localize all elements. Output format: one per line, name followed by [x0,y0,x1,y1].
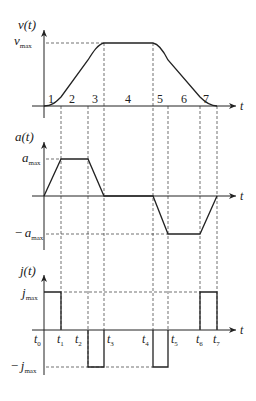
velocity-axis-label: v(t) [18,17,36,32]
velocity-plot: v(t) t vmax 1 2 3 4 5 6 7 [14,17,244,118]
time-label-t5: t5 [171,332,178,348]
amax-label: amax [22,150,41,167]
time-guide-lines [61,43,217,367]
jerk-plot: j(t) t jmax −jmax t0 t1 t2 t3 t4 t5 t6 t… [10,263,244,375]
segment-3: 3 [92,92,98,106]
segment-1: 1 [48,92,54,106]
segment-4: 4 [125,92,131,106]
time-label-t4: t4 [142,332,149,348]
time-label-t2: t2 [75,332,82,348]
time-label-t0: t0 [34,332,41,348]
jmax-label: jmax [20,285,38,302]
neg-amax-label: −amax [14,225,44,242]
vmax-label: vmax [14,33,32,50]
time-label-t6: t6 [196,332,203,348]
time-label-t7: t7 [213,332,220,348]
acceleration-axis-label: a(t) [15,129,34,144]
seven-segment-motion-profile-diagram: v(t) t vmax 1 2 3 4 5 6 7 a(t) t amax −a… [0,0,256,401]
time-label-t1: t1 [57,332,64,348]
segment-2: 2 [69,92,75,106]
segment-7: 7 [203,92,209,106]
segment-6: 6 [181,92,187,106]
acceleration-plot: a(t) t amax −amax [14,129,244,250]
jerk-t-label: t [240,323,244,337]
segment-numbers: 1 2 3 4 5 6 7 [48,92,209,106]
acceleration-t-label: t [240,189,244,203]
segment-5: 5 [157,92,163,106]
time-labels: t0 t1 t2 t3 t4 t5 t6 t7 [34,332,220,348]
jerk-axis-label: j(t) [18,263,36,278]
neg-jmax-label: −jmax [10,358,37,375]
velocity-t-label: t [240,99,244,113]
time-label-t3: t3 [107,332,114,348]
